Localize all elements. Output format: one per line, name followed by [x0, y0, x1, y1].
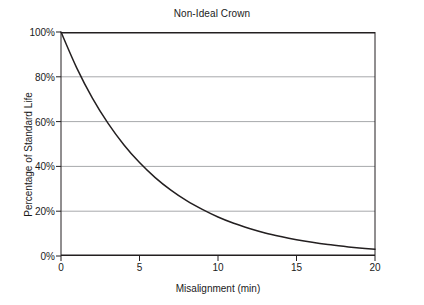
x-tick-label-15: 15 [291, 262, 302, 273]
y-tick-label-100: 100% [29, 27, 55, 38]
x-tick-label-20: 20 [369, 262, 380, 273]
x-tick-marks [61, 256, 375, 261]
chart-page: Non-Ideal Crown Percentage of Standard L… [0, 0, 424, 305]
x-tick-label-0: 0 [58, 262, 64, 273]
y-tick-label-0: 0% [41, 251, 55, 262]
chart-canvas [61, 32, 375, 256]
y-axis-title: Percentage of Standard Life [20, 32, 38, 277]
x-tick-label-5: 5 [137, 262, 143, 273]
y-tick-label-20: 20% [35, 206, 55, 217]
y-tick-label-40: 40% [35, 161, 55, 172]
chart-title: Non-Ideal Crown [0, 8, 424, 19]
y-tick-label-60: 60% [35, 116, 55, 127]
x-axis-title: Misalignment (min) [61, 283, 375, 294]
plot-area: 0%20%40%60%80%100% 05101520 [61, 32, 375, 256]
gridlines [61, 77, 375, 211]
y-tick-marks [56, 32, 61, 256]
data-series-curve [61, 32, 375, 249]
x-tick-label-10: 10 [212, 262, 223, 273]
y-tick-label-80: 80% [35, 71, 55, 82]
